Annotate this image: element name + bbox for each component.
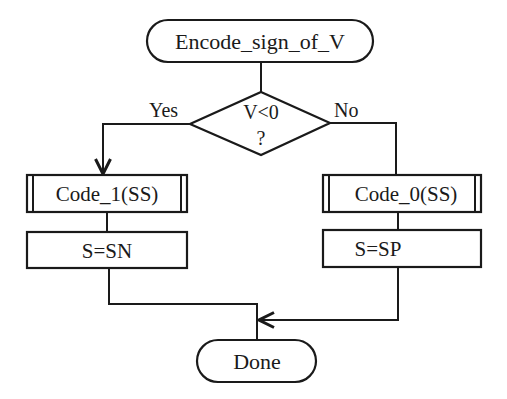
no-branch-connector xyxy=(330,123,396,175)
end-terminator: Done xyxy=(197,340,316,382)
yes-merge-connector xyxy=(109,268,257,340)
end-label: Done xyxy=(233,349,281,374)
decision-condition: V<0 xyxy=(243,101,279,123)
decision-diamond: V<0 ? xyxy=(190,92,330,155)
no-merge-arrow xyxy=(259,267,398,320)
s-equals-sn-process-box: S=SN xyxy=(27,232,187,268)
code-1-label: Code_1(SS) xyxy=(56,182,159,206)
s-equals-sp-label: S=SP xyxy=(355,237,402,261)
yes-branch-arrow xyxy=(103,124,190,174)
s-equals-sn-label: S=SN xyxy=(82,239,132,263)
start-terminator: Encode_sign_of_V xyxy=(147,20,373,62)
flowchart-canvas: Encode_sign_of_V V<0 ? Yes No Code_1(SS)… xyxy=(0,0,507,399)
start-label: Encode_sign_of_V xyxy=(175,29,345,54)
s-equals-sp-process-box: S=SP xyxy=(323,230,481,267)
code-1-process-box: Code_1(SS) xyxy=(27,175,187,212)
yes-branch-label: Yes xyxy=(149,99,178,121)
code-0-process-box: Code_0(SS) xyxy=(323,175,481,212)
no-branch-label: No xyxy=(334,99,358,121)
decision-question-mark: ? xyxy=(257,127,266,149)
code-0-label: Code_0(SS) xyxy=(355,182,458,206)
